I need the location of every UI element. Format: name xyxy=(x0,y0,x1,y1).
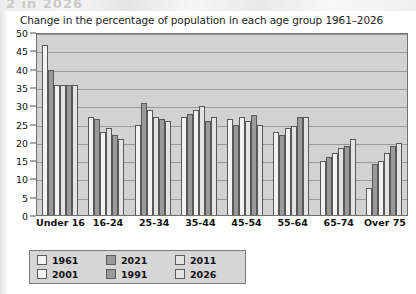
legend-label: 2011 xyxy=(190,255,216,266)
bar xyxy=(72,85,78,215)
x-axis-tick-label: Under 16 xyxy=(36,217,85,237)
legend-item: 1961 xyxy=(34,255,103,266)
legend-item: 2021 xyxy=(103,255,172,266)
legend-swatch xyxy=(37,255,47,265)
y-axis-tick-label: 15 xyxy=(16,156,28,167)
bar xyxy=(257,125,263,216)
legend-item: 1991 xyxy=(103,269,172,280)
x-axis-tick-label: 65-74 xyxy=(316,217,362,237)
bar-group xyxy=(268,34,314,215)
y-axis-tick-label: 50 xyxy=(16,28,28,39)
y-axis-tick-label: 35 xyxy=(16,82,28,93)
bar xyxy=(303,117,309,215)
plot-wrapper xyxy=(36,33,408,216)
chart-legend: 196120212011200119912026 xyxy=(29,250,246,284)
legend-label: 2021 xyxy=(121,255,147,266)
bar xyxy=(118,139,124,215)
y-axis-tick-label: 30 xyxy=(16,101,28,112)
y-axis-tick-label: 5 xyxy=(22,192,28,203)
bar-group xyxy=(83,34,129,215)
bar-group xyxy=(315,34,361,215)
y-axis: 05101520253035404550 xyxy=(0,33,36,216)
legend-swatch xyxy=(175,255,185,265)
legend-swatch xyxy=(37,269,47,279)
scan-artifact-text: 2 in 2026 xyxy=(6,0,83,11)
y-axis-tick-label: 0 xyxy=(22,211,28,222)
legend-item: 2026 xyxy=(172,269,241,280)
legend-label: 2001 xyxy=(52,269,78,280)
chart-title: Change in the percentage of population i… xyxy=(20,14,383,26)
legend-item: 2011 xyxy=(172,255,241,266)
x-axis-tick-label: 16-24 xyxy=(85,217,131,237)
scan-artifact-strip: 2 in 2026 xyxy=(0,0,416,11)
bar xyxy=(396,143,402,215)
legend-swatch xyxy=(175,269,185,279)
y-axis-tick-label: 45 xyxy=(16,46,28,57)
legend-item: 2001 xyxy=(34,269,103,280)
y-axis-tick-label: 25 xyxy=(16,119,28,130)
bar-group xyxy=(130,34,176,215)
y-axis-tick-label: 10 xyxy=(16,174,28,185)
y-axis-tick-label: 40 xyxy=(16,64,28,75)
chart-page: 2 in 2026 Change in the percentage of po… xyxy=(0,0,416,294)
x-axis-tick-label: 45-54 xyxy=(223,217,269,237)
bar xyxy=(165,121,171,215)
x-axis-tick-label: 25-34 xyxy=(131,217,177,237)
y-axis-tick-label: 20 xyxy=(16,137,28,148)
legend-label: 1961 xyxy=(52,255,78,266)
bar-group xyxy=(222,34,268,215)
legend-label: 1991 xyxy=(121,269,147,280)
plot-area xyxy=(36,33,408,216)
bar xyxy=(350,139,356,215)
x-axis-labels: Under 1616-2425-3435-4445-5455-6465-74Ov… xyxy=(36,217,408,237)
bar xyxy=(211,117,217,215)
x-axis-tick-label: Over 75 xyxy=(362,217,408,237)
legend-swatch xyxy=(106,255,116,265)
bar-groups xyxy=(37,34,407,215)
x-axis-tick-label: 35-44 xyxy=(177,217,223,237)
bar-group xyxy=(361,34,407,215)
legend-swatch xyxy=(106,269,116,279)
bar-group xyxy=(176,34,222,215)
legend-label: 2026 xyxy=(190,269,216,280)
x-axis-tick-label: 55-64 xyxy=(270,217,316,237)
bar-group xyxy=(37,34,83,215)
